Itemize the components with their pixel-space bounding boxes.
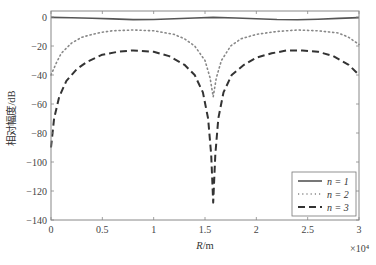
x-tick-label: 2 [254,224,259,235]
legend-label-n2: n = 2 [327,189,349,200]
x-tick-label: 1 [151,224,156,235]
y-tick-label: −40 [31,70,47,81]
legend-label-n3: n = 3 [327,202,349,213]
y-axis-label: 相对幅度/dB [5,90,17,145]
line-chart: 00.511.522.530−20−40−60−80−100−120−140 相… [0,0,376,265]
y-tick-label: −100 [26,157,47,168]
legend-label-n1: n = 1 [327,176,349,187]
x-tick-label: 3 [357,224,362,235]
x-tick-label: 2.5 [301,224,314,235]
y-tick-label: 0 [42,12,47,23]
x-axis-label: R/m [195,240,214,251]
legend: n = 1n = 2n = 3 [292,172,356,216]
x-tick-label: 0 [49,224,54,235]
series-n1 [51,17,359,19]
x-tick-label: 1.5 [199,224,212,235]
x-axis-multiplier: ×10⁴ [350,243,370,254]
x-tick-label: 0.5 [96,224,109,235]
y-tick-label: −120 [26,186,47,197]
y-tick-label: −60 [31,99,47,110]
y-tick-label: −140 [26,215,47,226]
series-n2 [51,30,359,97]
y-tick-label: −80 [31,128,47,139]
y-tick-label: −20 [31,41,47,52]
